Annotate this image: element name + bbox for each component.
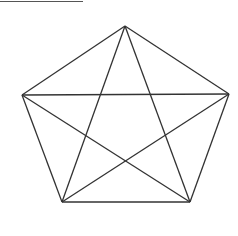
edge-bottom-left-left: [22, 95, 62, 202]
edge-top-bottom-left: [62, 26, 125, 202]
edge-top-left: [22, 26, 125, 95]
edge-top-bottom-right: [125, 26, 190, 202]
edge-top-right: [125, 26, 229, 94]
edge-right-bottom-right: [190, 94, 229, 202]
edge-right-left: [22, 94, 229, 95]
edge-bottom-right-left: [22, 95, 190, 202]
edges-group: [22, 26, 229, 202]
edge-right-bottom-left: [62, 94, 229, 202]
pentagram-diagram: [0, 0, 238, 236]
